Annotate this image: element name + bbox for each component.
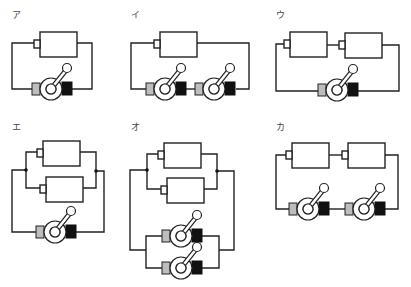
diagram-i bbox=[131, 32, 249, 100]
switch-icon bbox=[162, 243, 202, 280]
battery-icon bbox=[34, 32, 77, 57]
switch-icon bbox=[32, 64, 72, 101]
junction-dot bbox=[145, 168, 149, 172]
battery-icon bbox=[37, 141, 80, 166]
switch-icon bbox=[162, 211, 202, 248]
diagram-o bbox=[130, 143, 234, 279]
diagram-a bbox=[12, 32, 92, 100]
switch-icon bbox=[146, 64, 186, 101]
diagram-ka bbox=[276, 143, 398, 220]
switch-icon bbox=[195, 64, 235, 101]
battery-icon bbox=[342, 143, 385, 168]
battery-icon bbox=[158, 143, 201, 168]
circuit-diagrams bbox=[0, 0, 411, 287]
switch-icon bbox=[318, 65, 358, 102]
battery-icon bbox=[161, 178, 204, 203]
junction-dot bbox=[24, 168, 28, 172]
battery-icon bbox=[339, 33, 382, 58]
diagram-u bbox=[276, 32, 399, 101]
junction-dot bbox=[94, 169, 98, 173]
battery-icon bbox=[286, 143, 329, 168]
junction-dot bbox=[215, 169, 219, 173]
switch-icon bbox=[36, 207, 76, 244]
battery-icon bbox=[284, 32, 327, 57]
diagram-e bbox=[12, 141, 104, 243]
switch-icon bbox=[289, 184, 329, 221]
battery-icon bbox=[154, 32, 197, 57]
battery-icon bbox=[40, 177, 83, 202]
switch-icon bbox=[345, 184, 385, 221]
